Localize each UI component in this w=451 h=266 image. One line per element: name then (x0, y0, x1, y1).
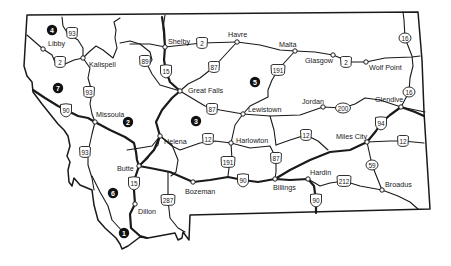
city-dot-icon (191, 180, 195, 184)
city-label: Kalispell (89, 60, 116, 69)
route-number: 200 (338, 105, 349, 112)
city-label: Bozeman (185, 187, 215, 196)
region-marker-4: 4 (47, 25, 57, 35)
region-marker-1: 1 (119, 228, 129, 238)
city-label: Helena (164, 137, 187, 146)
city-label: Glasgow (305, 56, 334, 65)
us-route-shield-2: 2 (341, 57, 352, 68)
city-dot-icon (158, 134, 162, 138)
city-label: Billings (273, 183, 296, 192)
city-label: Libby (48, 39, 66, 48)
us-route-shield-93: 93 (67, 28, 78, 39)
city-label: Hardin (310, 168, 331, 177)
city-label: Harlowton (236, 136, 268, 145)
route-number: 12 (204, 136, 212, 143)
route-number: 191 (273, 67, 284, 74)
route-number: 16 (401, 35, 409, 42)
interstate-route-shield-90: 90 (61, 104, 72, 117)
city-dot-icon (364, 60, 368, 64)
state-border (24, 12, 430, 249)
route-number: 15 (130, 180, 138, 187)
city-dot-icon (178, 89, 182, 93)
us-route-shield-87: 87 (209, 62, 220, 73)
city-dot-icon (241, 112, 245, 116)
interstate-route-shield-15: 15 (161, 65, 172, 78)
route-number: 87 (208, 106, 216, 113)
state-route-shield-16: 16 (399, 33, 411, 43)
interstate-route-shield-15: 15 (129, 177, 140, 190)
route-number: 90 (312, 197, 320, 204)
city-dot-icon (273, 177, 277, 181)
us-route-shield-87: 87 (207, 104, 218, 115)
svg-text:1: 1 (122, 230, 126, 237)
svg-text:3: 3 (194, 118, 198, 125)
svg-text:4: 4 (50, 27, 54, 34)
svg-text:6: 6 (111, 190, 115, 197)
route-number: 212 (339, 178, 350, 185)
city-label: Lewistown (248, 105, 282, 114)
city-dot-icon (163, 45, 167, 49)
city-label: Missoula (96, 110, 124, 119)
route-number: 93 (81, 149, 89, 156)
region-marker-7: 7 (53, 83, 63, 93)
city-dot-icon (306, 177, 310, 181)
route-number: 93 (68, 30, 76, 37)
svg-text:5: 5 (253, 79, 257, 86)
city-dot-icon (81, 56, 85, 60)
route-number: 93 (85, 89, 93, 96)
route-number: 12 (399, 138, 407, 145)
city-label: Havre (228, 30, 247, 39)
route-number: 287 (163, 197, 174, 204)
us-route-shield-2: 2 (55, 57, 66, 68)
route-number: 94 (377, 120, 385, 127)
city-dot-icon (380, 188, 384, 192)
state-route-shield-16: 16 (403, 87, 415, 97)
city-dot-icon (235, 40, 239, 44)
svg-text:2: 2 (126, 119, 130, 126)
us-route-shield-89: 89 (140, 56, 151, 67)
city-label: Jordan (302, 97, 324, 106)
interstate-route-shield-90: 90 (311, 194, 322, 207)
region-marker-6: 6 (108, 188, 118, 198)
route-number: 90 (239, 177, 247, 184)
route-number: 59 (368, 162, 376, 169)
us-route-shield-93: 93 (80, 147, 91, 158)
us-route-shield-93: 93 (84, 87, 95, 98)
city-label: Wolf Point (369, 63, 402, 72)
region-marker-5: 5 (250, 77, 260, 87)
city-dot-icon (133, 202, 137, 206)
city-label: Shelby (168, 37, 190, 46)
region-marker-3: 3 (191, 116, 201, 126)
svg-text:7: 7 (56, 85, 60, 92)
city-dot-icon (399, 105, 403, 109)
state-route-shield-59: 59 (366, 160, 378, 170)
route-number: 87 (272, 155, 280, 162)
city-dot-icon (93, 120, 97, 124)
state-route-shield-200: 200 (336, 103, 351, 113)
us-route-shield-12: 12 (398, 136, 409, 147)
us-route-shield-287: 287 (161, 195, 175, 206)
route-number: 87 (210, 64, 218, 71)
us-route-shield-191: 191 (271, 65, 285, 76)
route-number: 15 (162, 68, 170, 75)
city-label: Glendive (375, 95, 403, 104)
interstate-route-shield-90: 90 (238, 174, 249, 187)
interstate-route-shield-94: 94 (376, 117, 387, 130)
city-dot-icon (293, 49, 297, 53)
route-number: 89 (141, 58, 149, 65)
us-route-shield-191: 191 (221, 157, 235, 168)
route-number: 12 (302, 132, 310, 139)
city-dot-icon (229, 141, 233, 145)
city-dot-icon (41, 47, 45, 51)
montana-map: 4 7 2 3 5 6 1 93289152871912169390872001… (0, 0, 451, 266)
city-label: Great Falls (188, 86, 224, 95)
city-label: Butte (117, 164, 134, 173)
route-number: 2 (344, 59, 348, 66)
city-label: Miles City (336, 132, 368, 141)
city-dot-icon (137, 164, 141, 168)
us-route-shield-2: 2 (197, 38, 208, 49)
us-route-shield-12: 12 (203, 134, 214, 145)
city-label: Malta (279, 40, 297, 49)
route-number: 90 (62, 107, 70, 114)
route-number: 2 (58, 59, 62, 66)
